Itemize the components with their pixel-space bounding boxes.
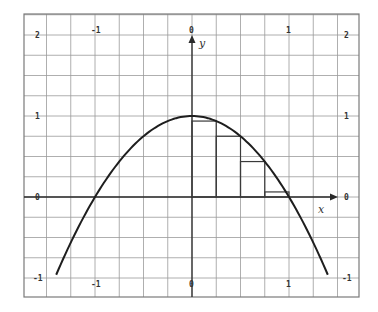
- y-axis-arrow-icon: [189, 35, 196, 43]
- x-tick-label-top-1: 1: [286, 26, 291, 35]
- riemann-rectangle: [192, 121, 216, 197]
- y-tick-label-right-2: 2: [344, 31, 349, 40]
- y-tick-label-left-neg1: -1: [33, 274, 43, 283]
- y-tick-label-left-2: 2: [35, 31, 40, 40]
- x-tick-label-bottom-1: 1: [286, 280, 291, 289]
- x-tick-label-bottom-0: 0: [189, 280, 194, 289]
- x-tick-label-bottom-neg1: -1: [91, 280, 101, 289]
- y-tick-label-right-1: 1: [344, 112, 349, 121]
- riemann-rectangle: [216, 136, 240, 197]
- y-tick-label-right-neg1: -1: [342, 274, 352, 283]
- y-tick-label-left-0: 0: [35, 193, 40, 202]
- x-axis-label: x: [318, 203, 325, 216]
- x-axis-arrow-icon: [330, 194, 338, 201]
- x-tick-label-top-0: 0: [189, 26, 194, 35]
- y-axis-label: y: [198, 37, 206, 50]
- parabola-plot: x y -1 0 1 -1 0 1 2 1 0 -1 2 1 0 -1: [0, 0, 378, 312]
- y-tick-label-left-1: 1: [35, 112, 40, 121]
- x-tick-label-top-neg1: -1: [91, 26, 101, 35]
- y-tick-label-right-0: 0: [344, 193, 349, 202]
- riemann-rectangle: [241, 162, 265, 197]
